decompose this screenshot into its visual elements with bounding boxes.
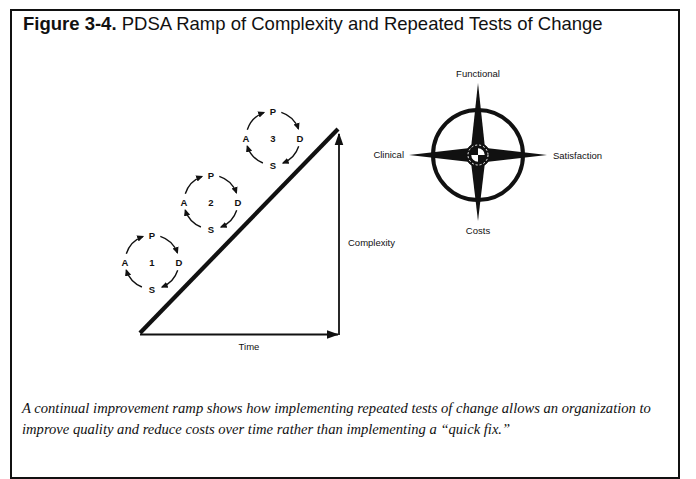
cycle-plan-label: P	[270, 106, 277, 117]
arrow-study-to-act	[126, 270, 142, 287]
arrow-act-to-plan	[126, 237, 143, 254]
arrow-plan-to-do	[160, 236, 177, 253]
arrow-do-to-study	[221, 210, 237, 227]
compass-label-west: Clinical	[373, 149, 404, 160]
arrow-plan-to-do	[281, 112, 298, 129]
cycle-do-label: D	[297, 133, 304, 144]
cycle-do-label: D	[235, 197, 242, 208]
compass-label-south: Costs	[466, 225, 491, 236]
complexity-axis-label: Complexity	[348, 237, 395, 248]
cycle-plan-label: P	[208, 170, 215, 181]
arrow-act-to-plan	[247, 113, 263, 130]
pdsa-cycle-3: PDSA3	[243, 106, 304, 171]
arrow-study-to-act	[247, 146, 263, 163]
arrow-plan-to-do	[219, 176, 236, 193]
cycle-do-label: D	[176, 257, 183, 268]
ramp-line	[140, 129, 338, 333]
cycle-study-label: S	[270, 160, 276, 171]
compass-label-east: Satisfaction	[553, 150, 602, 161]
arrow-act-to-plan	[185, 177, 202, 194]
compass	[409, 83, 547, 221]
cycle-act-label: A	[181, 197, 188, 208]
compass-label-north: Functional	[456, 68, 500, 79]
pdsa-cycles: PDSA1PDSA2PDSA3	[122, 106, 304, 295]
arrow-do-to-study	[162, 270, 178, 287]
figure-caption: A continual improvement ramp shows how i…	[22, 398, 682, 440]
compass-point-south	[471, 162, 485, 221]
cycle-plan-label: P	[149, 230, 156, 241]
compass-point-east	[486, 148, 547, 162]
cycle-study-label: S	[149, 284, 155, 295]
cycle-study-label: S	[208, 224, 214, 235]
cycle-act-label: A	[122, 257, 129, 268]
arrow-do-to-study	[283, 146, 299, 163]
compass-point-west	[409, 148, 470, 162]
cycle-number-label: 3	[270, 133, 275, 144]
pdsa-cycle-1: PDSA1	[122, 230, 183, 295]
cycle-number-label: 1	[149, 257, 155, 268]
cycle-act-label: A	[243, 133, 250, 144]
compass-point-north	[471, 83, 485, 148]
time-axis-label: Time	[239, 341, 260, 352]
arrow-study-to-act	[185, 210, 201, 227]
pdsa-cycle-2: PDSA2	[181, 170, 242, 235]
cycle-number-label: 2	[208, 197, 213, 208]
